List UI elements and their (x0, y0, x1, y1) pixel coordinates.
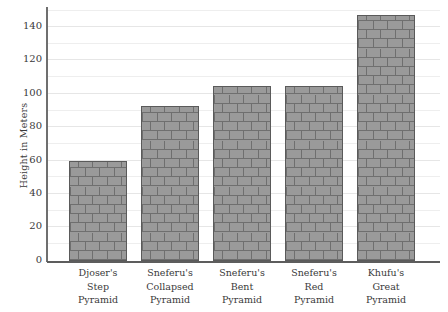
brick-row (286, 223, 342, 232)
y-tick-label: 0 (2, 253, 42, 264)
brick-row (70, 177, 126, 186)
brick-row (142, 196, 198, 205)
brick-row (286, 168, 342, 177)
brick-row (214, 187, 270, 196)
brick-row (214, 113, 270, 122)
brick-row (70, 214, 126, 223)
y-tick-label: 80 (2, 120, 42, 131)
bar-sneferus-bent-pyramid[interactable] (213, 86, 271, 261)
brick-row (358, 16, 414, 20)
brick-row (358, 49, 414, 58)
brick-row (142, 107, 198, 113)
brick-row (286, 205, 342, 214)
brick-row (142, 223, 198, 232)
y-tick-label: 100 (2, 86, 42, 97)
brick-row (142, 141, 198, 150)
bar-djosers-step-pyramid[interactable] (69, 161, 127, 261)
brick-row (358, 242, 414, 251)
brick-row (214, 223, 270, 232)
x-tick-line: Khufu's (343, 266, 429, 280)
brick-row (286, 251, 342, 260)
brick-row (142, 122, 198, 131)
brick-row (142, 214, 198, 223)
brick-row (142, 168, 198, 177)
brick-row (358, 150, 414, 159)
brick-row (358, 168, 414, 177)
brick-row (286, 177, 342, 186)
y-axis-line (46, 7, 48, 262)
brick-row (214, 87, 270, 95)
brick-row (286, 242, 342, 251)
brick-row (358, 39, 414, 48)
brick-row (142, 177, 198, 186)
brick-row (286, 104, 342, 113)
pyramid-height-bar-chart: Height in Meters 140 120 100 80 60 40 20… (0, 0, 448, 312)
x-tick-line: Pyramid (343, 293, 429, 307)
brick-row (286, 87, 342, 95)
brick-row (286, 187, 342, 196)
brick-row (214, 242, 270, 251)
brick-row (142, 150, 198, 159)
bar-sneferus-collapsed-pyramid[interactable] (141, 106, 199, 261)
brick-row (70, 187, 126, 196)
y-tick-label: 40 (2, 187, 42, 198)
brick-row (214, 159, 270, 168)
brick-row (358, 30, 414, 39)
brick-row (358, 187, 414, 196)
brick-row (286, 95, 342, 104)
brick-row (286, 122, 342, 131)
gridline-minor (47, 10, 440, 11)
x-axis-line (47, 261, 440, 263)
brick-row (214, 104, 270, 113)
brick-row (214, 122, 270, 131)
brick-row (286, 131, 342, 140)
x-axis-tick-labels: Djoser's Step Pyramid Sneferu's Collapse… (47, 266, 440, 312)
bar-khufus-great-pyramid[interactable] (357, 15, 415, 261)
brick-row (142, 233, 198, 242)
brick-row (358, 113, 414, 122)
brick-row (70, 205, 126, 214)
brick-row (70, 242, 126, 251)
brick-row (358, 177, 414, 186)
brick-row (142, 131, 198, 140)
brick-texture (142, 107, 198, 260)
brick-row (286, 214, 342, 223)
plot-area (47, 7, 440, 261)
x-tick-label-khufus-great-pyramid: Khufu's Great Pyramid (343, 266, 429, 307)
brick-row (214, 168, 270, 177)
brick-row (70, 196, 126, 205)
brick-row (70, 223, 126, 232)
brick-row (142, 205, 198, 214)
brick-row (142, 242, 198, 251)
brick-row (358, 251, 414, 260)
brick-row (286, 150, 342, 159)
brick-row (214, 233, 270, 242)
brick-texture (70, 162, 126, 260)
brick-row (286, 113, 342, 122)
brick-row (358, 67, 414, 76)
brick-row (358, 196, 414, 205)
brick-row (358, 58, 414, 67)
y-tick-label: 60 (2, 153, 42, 164)
brick-row (70, 233, 126, 242)
brick-row (358, 214, 414, 223)
bar-sneferus-red-pyramid[interactable] (285, 86, 343, 261)
y-tick-label: 120 (2, 53, 42, 64)
brick-row (358, 159, 414, 168)
brick-row (214, 131, 270, 140)
brick-row (214, 205, 270, 214)
brick-row (214, 196, 270, 205)
brick-row (286, 196, 342, 205)
brick-row (358, 233, 414, 242)
brick-row (286, 159, 342, 168)
brick-texture (358, 16, 414, 260)
brick-row (70, 162, 126, 168)
brick-row (70, 168, 126, 177)
brick-row (142, 187, 198, 196)
brick-row (214, 141, 270, 150)
brick-row (358, 131, 414, 140)
brick-row (358, 104, 414, 113)
brick-texture (214, 87, 270, 260)
brick-row (358, 85, 414, 94)
brick-row (358, 141, 414, 150)
